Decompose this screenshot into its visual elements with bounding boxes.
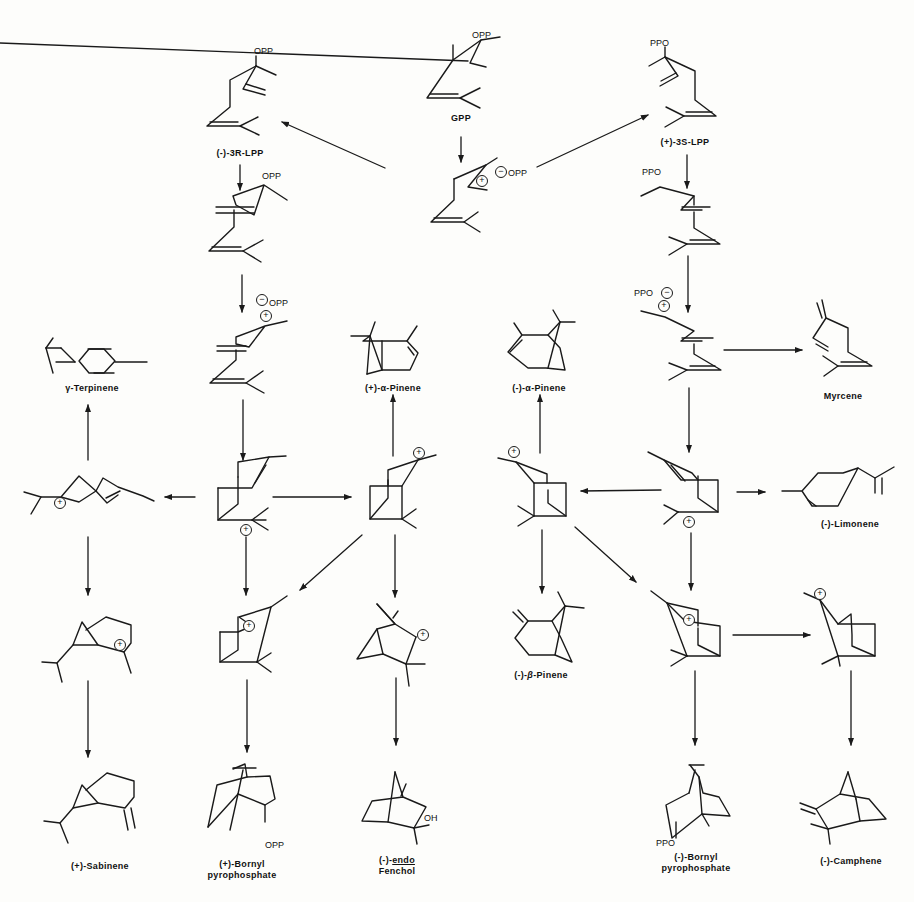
minus-pinanyl-cation-structure <box>498 458 566 526</box>
s-terpinyl-cation-structure <box>648 452 718 524</box>
arrow-minus-pinanyl-to-bornyl <box>575 527 636 582</box>
minus-bornyl-line1: (-)-Bornyl <box>662 852 731 863</box>
minus-limonene-label: (-)-Limonene <box>821 519 879 530</box>
s-ion-pair-structure <box>641 311 721 380</box>
minus-camphene-structure <box>800 772 886 844</box>
plus-bornyl-line1: (+)-Bornyl <box>208 859 277 870</box>
cation-charge-icon: + <box>114 639 126 651</box>
gpp-label: GPP <box>451 113 471 124</box>
minus-limonene-structure <box>782 467 894 506</box>
r-terpinyl-cation-structure <box>218 456 286 530</box>
s-lpp-structure <box>649 47 716 127</box>
cation-charge-icon: + <box>240 524 252 536</box>
beta-pinene-suffix: -Pinene <box>533 670 568 680</box>
gpp-structure <box>0 37 500 108</box>
minus-bornyl-pp-label: (-)-Bornylpyrophosphate <box>662 852 731 874</box>
s-lpp-ppo-group: PPO <box>650 38 669 48</box>
endo-text: endo <box>392 855 415 865</box>
reaction-arrows <box>88 115 851 757</box>
plus-bornyl-line2: pyrophosphate <box>208 870 277 881</box>
s-ion-pair-ppo-anion: PPO <box>634 288 653 298</box>
beta-pinene-prefix: (-)- <box>514 670 527 680</box>
r-ion-pair-opp-anion: OPP <box>269 298 288 308</box>
cation-charge-icon: + <box>476 175 488 187</box>
camphene-precursor-cation-structure <box>804 593 875 666</box>
anion-charge-icon: − <box>661 287 673 299</box>
r-lpp-label: (-)-3R-LPP <box>217 148 264 159</box>
fenchol-oh-group: OH <box>424 813 438 823</box>
r-lpp-opp-group: OPP <box>254 46 273 56</box>
cation-charge-icon: + <box>54 497 66 509</box>
plus-sabinene-structure <box>44 773 135 843</box>
r-lpp-structure <box>207 56 276 135</box>
arrow-plus-pinanyl-to-bornyl <box>300 535 362 590</box>
r-rotamer-opp-group: OPP <box>262 171 281 181</box>
minus-camphene-label: (-)-Camphene <box>820 856 882 867</box>
minus-beta-pinene-structure <box>513 592 584 662</box>
sabinyl-precursor-cation-structure <box>24 476 154 514</box>
plus-pinanyl-cation-structure <box>370 455 436 528</box>
minus-alpha-pinene-structure <box>508 310 575 370</box>
arrow-to-r-lpp <box>282 122 385 168</box>
r-ion-pair-structure <box>210 321 287 393</box>
cation-charge-icon: + <box>814 588 826 600</box>
endo-fenchol-structure <box>362 772 429 844</box>
s-lpp-rotamer-structure <box>641 187 720 255</box>
terpinene-text: -Terpinene <box>70 383 118 393</box>
ion-pair-opp-anion: OPP <box>508 168 527 178</box>
myrcene-structure <box>813 300 872 376</box>
gpp-ionization-structure <box>431 158 497 232</box>
minus-beta-pinene-label: (-)-β-Pinene <box>514 670 568 681</box>
gamma-terpinene-structure <box>46 338 147 373</box>
anion-charge-icon: − <box>256 294 268 306</box>
cation-charge-icon: + <box>658 300 670 312</box>
cation-charge-icon: + <box>417 629 429 641</box>
endo-fenchol-label: (-)-endoFenchol <box>379 855 416 877</box>
minus-bornyl-cation-structure <box>651 591 720 666</box>
gamma-terpinene-label: γ-Terpinene <box>65 383 119 394</box>
s-rotamer-ppo-group: PPO <box>642 167 661 177</box>
cation-charge-icon: + <box>683 614 695 626</box>
gpp-opp-group: OPP <box>472 30 491 40</box>
minus-bornyl-ppo-group: PPO <box>656 838 675 848</box>
cation-charge-icon: + <box>508 446 520 458</box>
arrow-to-minus-pinanyl <box>581 490 661 491</box>
minus-alpha-pinene-label: (-)-α-Pinene <box>512 383 566 394</box>
arrow-to-s-lpp <box>537 115 648 167</box>
reaction-scheme <box>0 0 914 902</box>
plus-alpha-pinene-structure <box>351 322 418 374</box>
anion-charge-icon: − <box>495 166 507 178</box>
cation-charge-icon: + <box>260 310 272 322</box>
plus-alpha-pinene-label: (+)-α-Pinene <box>365 383 421 394</box>
minus-bornyl-line2: pyrophosphate <box>662 863 731 874</box>
fenchol-prefix: (-)- <box>379 855 392 865</box>
r-lpp-rotamer-structure <box>209 185 287 262</box>
cation-charge-icon: + <box>683 516 695 528</box>
plus-bornyl-cation-structure <box>220 596 287 672</box>
plus-bornyl-opp-group: OPP <box>265 840 284 850</box>
fenchol-line2: Fenchol <box>379 866 416 877</box>
s-lpp-label: (+)-3S-LPP <box>661 137 710 148</box>
plus-bornyl-pp-structure <box>208 764 275 830</box>
plus-sabinene-label: (+)-Sabinene <box>71 861 129 872</box>
cation-charge-icon: + <box>243 620 255 632</box>
myrcene-label: Myrcene <box>824 391 863 402</box>
cation-charge-icon: + <box>413 447 425 459</box>
minus-bornyl-pp-structure <box>666 765 730 838</box>
plus-bornyl-pp-label: (+)-Bornylpyrophosphate <box>208 859 277 881</box>
fenchyl-cation-structure <box>357 604 425 686</box>
